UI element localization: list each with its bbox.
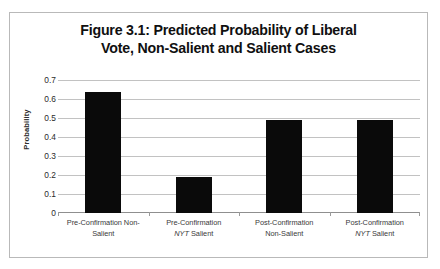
y-axis-tick-label: 0.1 <box>28 189 56 199</box>
y-axis-tick-labels: 0.70.60.50.40.30.20.10 <box>28 68 56 213</box>
x-axis-category-label: Post-ConfirmationNYT Salient <box>330 218 421 239</box>
bar-slot <box>149 80 240 213</box>
x-axis-category-label: Post-ConfirmationNon-Salient <box>239 218 330 239</box>
x-axis-category-label-line: Pre-Confirmation <box>149 218 240 229</box>
x-axis-category-label: Pre-ConfirmationNYT Salient <box>149 218 240 239</box>
y-axis-tick-label: 0.4 <box>28 132 56 142</box>
x-axis-category-label-line: Non-Salient <box>239 229 330 240</box>
figure-frame: Figure 3.1: Predicted Probability of Lib… <box>9 12 428 258</box>
x-axis-category-label-line: Pre-Confirmation Non- <box>58 218 149 229</box>
plot-area <box>58 80 420 213</box>
bar-slot <box>58 80 149 213</box>
x-axis-category-label-line: NYT Salient <box>149 229 240 240</box>
bar[interactable] <box>357 120 393 213</box>
x-axis-category-label-line: Post-Confirmation <box>239 218 330 229</box>
x-axis-category-labels: Pre-Confirmation Non-SalientPre-Confirma… <box>58 218 420 252</box>
y-axis-tick-label: 0.5 <box>28 113 56 123</box>
bar-slot <box>239 80 330 213</box>
y-axis-tick-label: 0 <box>28 208 56 218</box>
y-axis-tick-label: 0.2 <box>28 170 56 180</box>
bar-series <box>58 80 420 213</box>
y-axis-tick-label: 0.3 <box>28 151 56 161</box>
x-axis-category-label-line: Post-Confirmation <box>330 218 421 229</box>
y-axis-tick-label: 0.7 <box>28 75 56 85</box>
x-axis-category-label-line: Salient <box>58 229 149 240</box>
bar[interactable] <box>266 120 302 213</box>
y-axis-tick-label: 0.6 <box>28 94 56 104</box>
x-axis-category-label: Pre-Confirmation Non-Salient <box>58 218 149 239</box>
x-axis-category-label-line: NYT Salient <box>330 229 421 240</box>
plot-wrapper: Probability 0.70.60.50.40.30.20.10 Pre-C… <box>10 13 429 259</box>
bar[interactable] <box>85 92 121 213</box>
bar-slot <box>330 80 421 213</box>
bar[interactable] <box>176 177 212 213</box>
